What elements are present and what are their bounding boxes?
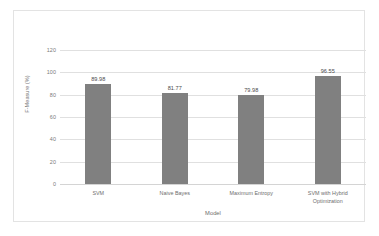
gridline: [60, 184, 366, 185]
bar-value-label: 79.98: [244, 87, 258, 93]
y-axis-title: F-Measure (%): [24, 54, 30, 134]
x-axis-title: Model: [60, 210, 366, 216]
bar-value-label: 96.55: [321, 68, 335, 74]
bars-layer: 89.9881.7779.9896.55: [60, 50, 366, 184]
bar-value-label: 81.77: [168, 85, 182, 91]
y-axis-tick-label: 120: [16, 47, 56, 53]
y-axis-tick-label: 80: [16, 92, 56, 98]
chart-frame: 020406080100120 F-Measure (%) 89.9881.77…: [13, 10, 365, 222]
x-axis-tick-label: SVM: [60, 189, 137, 197]
bar[interactable]: [315, 76, 341, 184]
bar-slot: 96.55: [290, 50, 367, 184]
y-axis-tick-label: 60: [16, 114, 56, 120]
bar-value-label: 89.98: [91, 76, 105, 82]
bar-slot: 79.98: [213, 50, 290, 184]
x-axis-tick-label: Naive Bayes: [137, 189, 214, 197]
bar[interactable]: [85, 84, 111, 184]
bar[interactable]: [162, 93, 188, 184]
y-axis-tick-label: 40: [16, 136, 56, 142]
y-axis-tick-label: 100: [16, 69, 56, 75]
y-axis-tick-label: 20: [16, 159, 56, 165]
y-axis-tick-label: 0: [16, 181, 56, 187]
bar-slot: 89.98: [60, 50, 137, 184]
x-axis-tick-label: Maximum Entropy: [213, 189, 290, 197]
y-axis-ticks: 020406080100120: [14, 50, 56, 184]
bar-slot: 81.77: [137, 50, 214, 184]
x-axis-tick-label: SVM with Hybrid Optimization: [290, 189, 367, 205]
bar[interactable]: [238, 95, 264, 184]
